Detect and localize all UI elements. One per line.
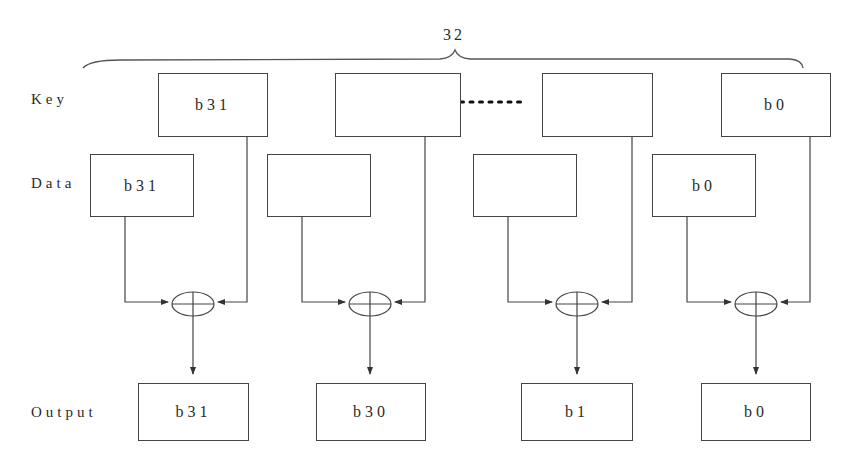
bit-width-label: 32 — [443, 26, 465, 44]
row-label-output: Output — [31, 404, 97, 421]
data-box-b1 — [473, 154, 577, 217]
key-box-b1 — [542, 73, 653, 137]
output-box-b1: b1 — [521, 383, 633, 441]
row-label-data: Data — [31, 175, 75, 192]
output-box-b31: b31 — [138, 383, 249, 441]
data-box-b0: b0 — [652, 154, 756, 217]
key-box-b31: b31 — [158, 73, 268, 137]
output-box-b0: b0 — [701, 383, 811, 441]
width-brace — [83, 50, 803, 68]
data-box-b30 — [267, 154, 371, 217]
output-box-b30: b30 — [316, 383, 426, 441]
key-box-b30 — [335, 73, 461, 137]
key-box-b0: b0 — [721, 73, 831, 137]
data-box-b31: b31 — [90, 154, 194, 217]
row-label-key: Key — [31, 91, 68, 108]
